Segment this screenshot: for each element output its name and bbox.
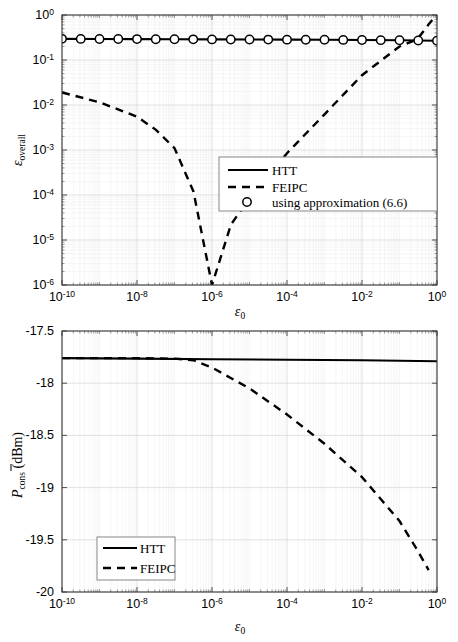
legend-power-consumption[interactable]: HTT FEIPC [97, 537, 175, 580]
data-marker [320, 36, 328, 44]
y-tick-label: -18 [36, 376, 54, 390]
x-tick-label: 100 [428, 596, 447, 611]
x-tick-label: 100 [428, 289, 447, 304]
data-marker [77, 35, 85, 43]
y-axis-title: Pcons (dBm) [10, 432, 27, 499]
x-tick-label: 10-10 [49, 289, 75, 304]
data-marker [227, 35, 235, 43]
legend-overall-error[interactable]: HTT FEIPC using approximation (6.6) [219, 157, 437, 211]
x-axis-title: ε0 [235, 304, 246, 320]
x-tick-labels: 10-1010-810-610-410-2100 [49, 289, 447, 304]
chart-panel-overall-error: 10-1010-810-610-410-2100 10-610-510-410-… [0, 0, 458, 320]
y-tick-label: 10-4 [33, 187, 55, 202]
x-axis-title-sub: 0 [240, 311, 245, 320]
data-marker [208, 35, 216, 43]
legend-label-feipc: FEIPC [272, 180, 307, 195]
legend-label-approximation: using approximation (6.6) [272, 195, 407, 210]
y-tick-label: -20 [36, 585, 54, 599]
svg-text:ε0: ε0 [235, 304, 246, 320]
data-marker [414, 36, 422, 44]
data-marker [114, 35, 122, 43]
data-marker [339, 36, 347, 44]
legend-label-feipc: FEIPC [140, 561, 175, 576]
y-tick-labels: -20-19.5-19-18.5-18-17.5 [26, 324, 55, 599]
x-tick-label: 10-6 [201, 596, 223, 611]
y-axis-title-sub: cons [17, 472, 27, 490]
figure-container: 10-1010-810-610-410-2100 10-610-510-410-… [0, 0, 458, 642]
data-marker [170, 35, 178, 43]
x-tick-label: 10-4 [276, 289, 298, 304]
x-tick-label: 10-8 [126, 596, 148, 611]
data-marker [395, 36, 403, 44]
data-marker [245, 35, 253, 43]
power-consumption-svg: 10-1010-810-610-410-2100 -20-19.5-19-18.… [0, 320, 458, 642]
y-tick-label: 10-2 [33, 97, 55, 112]
x-axis-title-sub: 0 [240, 626, 245, 636]
data-marker [302, 36, 310, 44]
data-marker [264, 35, 272, 43]
data-marker [189, 35, 197, 43]
legend-swatch-approximation [243, 198, 251, 206]
y-tick-label: -19.5 [26, 533, 55, 547]
x-axis-title: ε0 [235, 619, 246, 636]
y-tick-label: -17.5 [26, 324, 55, 338]
chart-panel-power-consumption: 10-1010-810-610-410-2100 -20-19.5-19-18.… [0, 320, 458, 642]
y-tick-label: 100 [35, 7, 54, 22]
x-tick-label: 10-2 [351, 289, 373, 304]
data-marker [283, 35, 291, 43]
data-marker [377, 36, 385, 44]
data-marker [152, 35, 160, 43]
overall-error-svg: 10-1010-810-610-410-2100 10-610-510-410-… [0, 0, 458, 320]
y-tick-label: -18.5 [26, 428, 55, 442]
legend-label-htt: HTT [272, 163, 297, 178]
y-axis-title-sub: overall [17, 134, 27, 161]
y-axis-title-base: P [10, 489, 25, 499]
svg-text:εoverall: εoverall [10, 134, 27, 166]
x-tick-label: 10-4 [276, 596, 298, 611]
x-tick-label: 10-6 [201, 289, 223, 304]
x-tick-labels: 10-1010-810-610-410-2100 [49, 596, 447, 611]
legend-label-htt: HTT [140, 541, 165, 556]
svg-text:Pcons (dBm): Pcons (dBm) [10, 432, 27, 499]
x-tick-label: 10-8 [126, 289, 148, 304]
y-tick-labels: 10-610-510-410-310-210-1100 [33, 7, 55, 292]
svg-text:ε0: ε0 [235, 619, 246, 636]
y-tick-label: 10-1 [33, 52, 55, 67]
y-axis-title-unit: (dBm) [10, 432, 26, 469]
x-tick-label: 10-2 [351, 596, 373, 611]
data-marker [133, 35, 141, 43]
data-marker [95, 35, 103, 43]
data-marker [358, 36, 366, 44]
y-tick-label: 10-5 [33, 232, 55, 247]
y-tick-label: -19 [36, 481, 54, 495]
y-axis-title: εoverall [10, 134, 27, 166]
y-tick-label: 10-3 [33, 142, 55, 157]
